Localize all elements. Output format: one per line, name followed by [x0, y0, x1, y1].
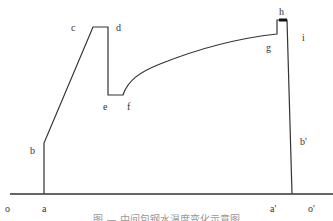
label-b-prime: b' — [300, 137, 307, 147]
label-b: b — [30, 146, 35, 156]
label-h: h — [279, 7, 284, 17]
label-a: a — [42, 204, 46, 214]
label-i: i — [302, 33, 305, 43]
diagram-canvas: o a b c d e f g h i b' a' o' 图 — 中间包钢水温度… — [0, 0, 333, 221]
figure-caption: 图 — 中间包钢水温度变化示意图 — [0, 214, 333, 221]
label-a-prime: a' — [270, 204, 276, 214]
curve-diagram — [0, 0, 333, 221]
label-e: e — [103, 102, 107, 112]
label-g: g — [266, 43, 271, 53]
profile-curve — [44, 20, 292, 194]
label-o-prime: o' — [308, 204, 315, 214]
label-f: f — [127, 102, 130, 112]
label-c: c — [71, 23, 75, 33]
label-d: d — [116, 23, 121, 33]
label-o: o — [5, 204, 10, 214]
